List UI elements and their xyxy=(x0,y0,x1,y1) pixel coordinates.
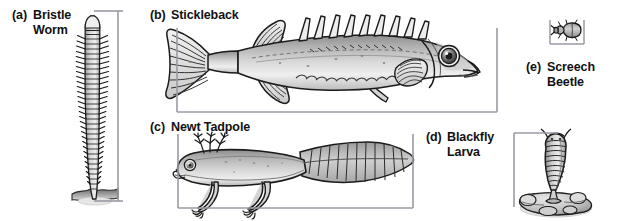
panel-name-bristle-worm: Bristle Worm xyxy=(33,8,71,38)
panel-tag-e: (e) xyxy=(526,60,547,75)
panel-name-screech-beetle: Screech Beetle xyxy=(547,60,595,90)
panel-bristle-worm: (a)Bristle Worm xyxy=(0,0,150,221)
figure-panel-group: (a)Bristle Worm xyxy=(0,0,618,221)
panel-newt-tadpole: (c)Newt Tadpole xyxy=(148,116,428,221)
scalebar-stickleback xyxy=(174,28,502,116)
panel-label-bristle-worm: (a)Bristle Worm xyxy=(12,8,71,38)
scalebar-newt-tadpole xyxy=(175,134,417,212)
panel-blackfly-larva: (d)Blackfly Larva xyxy=(424,124,618,221)
scalebar-blackfly-larva xyxy=(510,130,562,210)
panel-label-screech-beetle: (e)Screech Beetle xyxy=(526,60,595,90)
panel-screech-beetle: (e)Screech Beetle xyxy=(512,0,618,110)
panel-stickleback: (b)Stickleback xyxy=(148,0,508,120)
panel-label-blackfly-larva: (d)Blackfly Larva xyxy=(426,130,494,160)
panel-tag-a: (a) xyxy=(12,8,33,23)
scalebar-bristle-worm xyxy=(88,8,124,204)
panel-name-blackfly-larva: Blackfly Larva xyxy=(447,130,494,160)
panel-tag-d: (d) xyxy=(426,130,447,145)
scalebar-screech-beetle xyxy=(548,18,588,48)
